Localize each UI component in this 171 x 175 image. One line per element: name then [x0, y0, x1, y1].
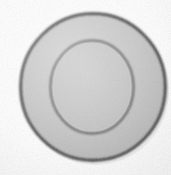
disc-illustration: [0, 0, 171, 175]
scan-grain-texture: [0, 0, 171, 175]
scanned-image-frame: Low-resolution scanned photograph of a r…: [0, 0, 171, 175]
